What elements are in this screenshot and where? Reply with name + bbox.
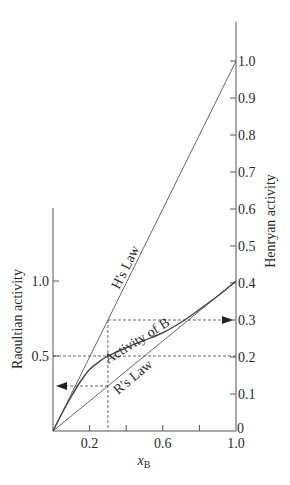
right-axis-label: Henryan activity: [263, 174, 278, 268]
right-tick-label: 0.5: [238, 239, 256, 254]
right-tick-label: 0.4: [238, 276, 256, 291]
arrow-right-icon: [222, 316, 233, 324]
activity-of-b-label: Activity of B: [102, 315, 173, 367]
right-tick-label: 0.1: [238, 387, 256, 402]
left-axis-label: Raoultian activity: [10, 269, 25, 369]
x-tick-label: 0.2: [81, 436, 99, 451]
right-tick-label: 0.6: [238, 202, 256, 217]
x-axis-ticks: 0.20.61.0: [81, 425, 245, 451]
arrow-left-icon: [56, 382, 67, 390]
x-tick-label: 0.6: [154, 436, 172, 451]
right-tick-label: 1.0: [238, 54, 256, 69]
right-tick-label: 0: [237, 421, 244, 436]
right-tick-label: 0.7: [238, 165, 256, 180]
left-tick-label: 1.0: [32, 274, 50, 289]
x-axis-label-sub: B: [144, 459, 151, 470]
left-tick-label: 0.5: [32, 349, 50, 364]
x-tick-label: 1.0: [227, 436, 245, 451]
x-axis-label: xB: [137, 453, 151, 470]
left-axis-ticks: 0.51.0: [32, 274, 60, 364]
right-tick-label: 0.9: [238, 91, 256, 106]
activity-chart: 0.20.61.0 0.51.0 00.10.20.30.40.50.60.70…: [0, 0, 290, 485]
right-tick-label: 0.2: [238, 350, 256, 365]
right-axis-ticks: 00.10.20.30.40.50.60.70.80.91.0: [230, 54, 256, 436]
right-tick-label: 0.3: [238, 313, 256, 328]
right-tick-label: 0.8: [238, 128, 256, 143]
r-law-label: R's Law: [110, 356, 155, 397]
